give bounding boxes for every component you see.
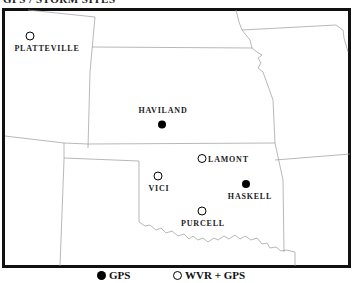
site-label: PURCELL: [181, 219, 225, 228]
legend-item-gps: GPS: [97, 269, 130, 281]
border-nebraska-kansas: [92, 47, 252, 48]
open-circle-icon: [198, 207, 206, 215]
site-purcell: PURCELL: [181, 207, 225, 228]
site-label: PLATTEVILLE: [14, 44, 79, 53]
open-circle-icon: [198, 155, 206, 163]
border-missouri-river: [236, 10, 263, 72]
site-label: VICI: [149, 184, 170, 193]
legend-label-wvr-gps: WVR + GPS: [185, 269, 245, 281]
border-panhandle: [64, 158, 139, 222]
site-label: HASKELL: [228, 192, 272, 201]
site-label: LAMONT: [208, 155, 249, 164]
legend-item-wvr-gps: WVR + GPS: [173, 269, 245, 281]
border-newmexico-texas: [60, 143, 64, 266]
site-haskell: HASKELL: [228, 180, 272, 201]
site-lamont: LAMONT: [198, 155, 249, 164]
filled-circle-icon: [97, 271, 106, 280]
border-colorado-west-north: [28, 10, 95, 148]
open-circle-icon: [154, 172, 162, 180]
border-kansas-oklahoma: [88, 143, 275, 144]
filled-circle-icon: [242, 180, 250, 188]
border-missouri-arkansas: [275, 154, 350, 160]
border-red-river: [139, 222, 295, 266]
site-vici: VICI: [149, 172, 170, 193]
site-label: HAVILAND: [139, 106, 188, 115]
filled-circle-icon: [158, 121, 166, 129]
site-map: PLATTEVILLE HAVILAND LAMONT VICI HASKELL…: [0, 0, 353, 268]
border-kansas-east: [263, 72, 275, 143]
border-iowa-missouri: [242, 25, 348, 52]
legend: GPS WVR + GPS: [0, 268, 353, 283]
open-circle-icon: [173, 271, 182, 280]
border-colorado-newmexico: [5, 136, 88, 144]
legend-label-gps: GPS: [109, 269, 130, 281]
open-circle-icon: [26, 32, 34, 40]
site-platteville: PLATTEVILLE: [14, 32, 79, 53]
site-haviland: HAVILAND: [139, 106, 188, 129]
